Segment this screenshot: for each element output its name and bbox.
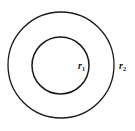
outer-radius-subscript: 2 [123,65,126,72]
figure-canvas: r1 r2 [0,0,135,131]
inner-radius-subscript: 1 [82,65,85,72]
concentric-circles-figure: r1 r2 [0,0,135,131]
figure-background [0,0,135,131]
